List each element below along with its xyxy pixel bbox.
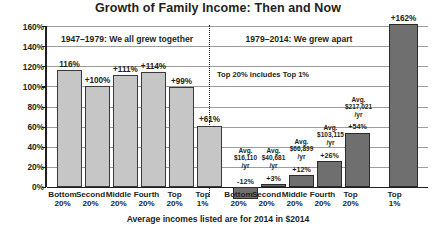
bar-1979-fourth20[interactable] <box>317 161 342 187</box>
bar-label-1979-fourth20: +26% <box>311 152 348 159</box>
avg-amount: $217,021 <box>337 103 380 111</box>
bar-1947-bottom20[interactable] <box>57 70 82 187</box>
avg-unit: /yr <box>337 111 380 119</box>
bar-label-1947-top1: +61% <box>191 116 228 124</box>
bar-1947-second20[interactable] <box>85 86 110 187</box>
bar-1947-top1[interactable] <box>197 126 222 187</box>
avg-caption: Avg. <box>337 96 380 104</box>
y-tick-160: 160% <box>0 23 44 31</box>
bar-label-1979-top20: +54% <box>339 123 376 130</box>
y-tick-dash-0 <box>42 187 46 188</box>
gridline-120 <box>47 66 428 67</box>
xtick-line2: 20% <box>328 199 373 208</box>
bar-1979-top20[interactable] <box>345 133 370 187</box>
y-tick-100: 100% <box>0 83 44 91</box>
avg-income-1979-top20: Avg. $217,021 /yr <box>337 96 380 119</box>
bar-label-1979-middle20: +12% <box>283 166 320 173</box>
y-tick-80: 80% <box>0 103 44 111</box>
xtick-1979-top1: Top 1% <box>372 190 417 209</box>
bar-1947-top20[interactable] <box>169 87 194 187</box>
chart-footnote: Average incomes listed are for 2014 in $… <box>0 214 436 224</box>
bar-label-1979-top1: +162% <box>384 15 423 23</box>
top20-includes-top1-note: Top 20% includes Top 1% <box>217 70 309 79</box>
bar-1979-second20[interactable] <box>261 184 286 187</box>
bar-label-1947-bottom20: 116% <box>51 61 88 69</box>
era-label-1979-2014: 1979–2014: We grew apart <box>219 28 379 49</box>
y-tick-40: 40% <box>0 143 44 151</box>
income-growth-chart: Growth of Family Income: Then and Now 16… <box>0 0 436 234</box>
bar-1947-fourth20[interactable] <box>141 72 166 187</box>
y-tick-20: 20% <box>0 163 44 171</box>
chart-title: Growth of Family Income: Then and Now <box>0 1 436 15</box>
y-tick-140: 140% <box>0 43 44 51</box>
y-tick-60: 60% <box>0 123 44 131</box>
bar-label-1979-second20: +3% <box>255 175 292 182</box>
bar-label-1947-second20: +100% <box>79 77 116 85</box>
y-tick-0: 0% <box>0 183 44 191</box>
bar-1947-middle20[interactable] <box>113 75 138 187</box>
bar-1979-top1[interactable] <box>389 24 418 187</box>
xtick-line1: Top <box>372 190 417 199</box>
xtick-line1: Top <box>328 190 373 199</box>
y-axis-spine <box>45 26 47 187</box>
plot-area: 1947–1979: We all grew together 1979–201… <box>47 26 428 187</box>
era-label-1947-1979: 1947–1979: We all grew together <box>51 28 203 49</box>
xtick-1979-top20: Top 20% <box>328 190 373 209</box>
bar-label-1947-top20: +99% <box>163 78 200 86</box>
gridline-160 <box>47 26 428 27</box>
xtick-line2: 1% <box>372 199 417 208</box>
bar-label-1947-fourth20: +114% <box>135 63 172 71</box>
bar-1979-middle20[interactable] <box>289 175 314 187</box>
y-tick-120: 120% <box>0 63 44 71</box>
